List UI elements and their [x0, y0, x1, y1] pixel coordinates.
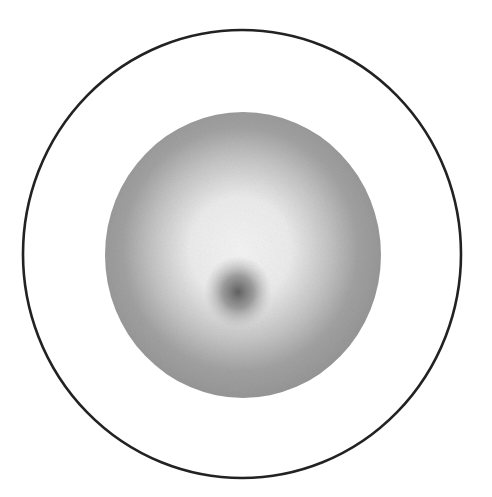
sphere-body: [105, 112, 381, 398]
sphere: [105, 112, 381, 398]
figure: [0, 0, 492, 497]
dark-spot: [204, 256, 272, 328]
